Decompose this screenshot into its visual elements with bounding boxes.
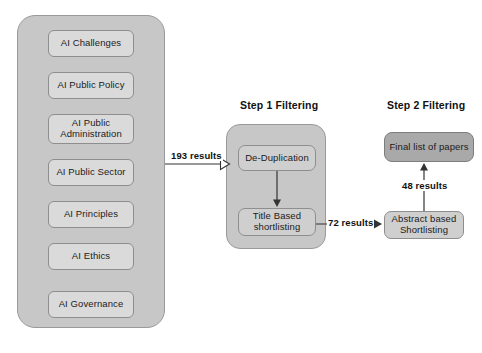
process-box-abstract-based-shortlisting[interactable]: Abstract basedShortlisting [384, 211, 464, 239]
topic-box-ai-public-sector[interactable]: AI Public Sector [48, 159, 134, 186]
topic-label: AI Governance [59, 299, 124, 310]
topic-label: AI Principles [64, 209, 118, 220]
process-label: De-Duplication [245, 153, 309, 164]
step-2-title: Step 2 Filtering [387, 99, 465, 111]
arrowhead-72-results [374, 220, 382, 229]
topic-box-ai-public-policy[interactable]: AI Public Policy [48, 72, 134, 99]
process-label: Abstract basedShortlisting [392, 214, 457, 235]
edge-label-193-results: 193 results [170, 150, 223, 161]
topic-box-ai-governance[interactable]: AI Governance [48, 291, 134, 318]
topic-box-ai-challenges[interactable]: AI Challenges [48, 30, 134, 57]
process-box-title-based-shortlisting[interactable]: Title Basedshortlisting [238, 208, 316, 236]
final-label: Final list of papers [389, 142, 468, 153]
step-1-title: Step 1 Filtering [240, 99, 318, 111]
edge-label-48-results: 48 results [401, 180, 448, 191]
topic-box-ai-principles[interactable]: AI Principles [48, 201, 134, 228]
process-label: Title Basedshortlisting [253, 211, 301, 232]
topic-box-ai-ethics[interactable]: AI Ethics [48, 243, 134, 270]
topic-label: AI Challenges [61, 38, 121, 49]
topic-label: AI Ethics [72, 251, 110, 262]
process-box-de-duplication[interactable]: De-Duplication [238, 145, 316, 171]
topic-label: AI Public Sector [56, 167, 125, 178]
topic-label: AI Public Policy [57, 80, 124, 91]
arrowhead-48-results [420, 163, 428, 171]
topic-box-ai-public-administration[interactable]: AI PublicAdministration [48, 114, 134, 144]
edge-label-72-results: 72 results [327, 217, 374, 228]
diagram-canvas: AI Challenges AI Public Policy AI Public… [0, 0, 482, 353]
topic-label: AI PublicAdministration [60, 118, 122, 139]
final-list-of-papers-box[interactable]: Final list of papers [384, 132, 474, 162]
